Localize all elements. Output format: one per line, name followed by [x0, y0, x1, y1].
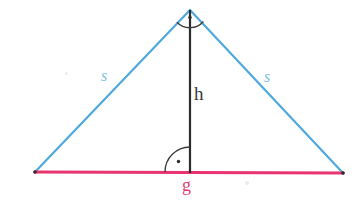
geometry-canvas	[0, 0, 364, 202]
base-right-angle-arc	[165, 147, 190, 172]
scan-speck-bottom	[245, 181, 249, 185]
scan-speck-left	[65, 72, 68, 75]
geometry-figure: s s h g	[0, 0, 364, 202]
apex-angle-dot	[188, 16, 191, 19]
triangle-right-side	[190, 10, 343, 173]
base-right-angle-dot	[177, 160, 180, 163]
vertex-bottom-left-point	[33, 170, 37, 174]
side-label-right: s	[264, 69, 270, 85]
height-label: h	[194, 84, 204, 103]
vertex-bottom-right-point	[341, 171, 345, 175]
side-label-left: s	[101, 68, 107, 84]
base-label: g	[182, 176, 191, 194]
triangle-left-side	[35, 10, 190, 172]
